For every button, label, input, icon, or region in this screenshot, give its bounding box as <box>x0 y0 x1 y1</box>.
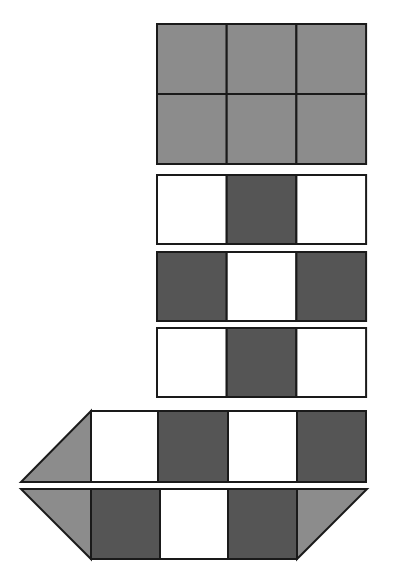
strip-tile-light <box>296 175 366 244</box>
left-triangle <box>21 411 91 482</box>
strip-tile-dark <box>228 489 297 559</box>
strip-tile-light <box>157 328 227 397</box>
strip-tile-dark <box>227 175 297 244</box>
strip-tile-light <box>160 489 228 559</box>
left-triangle <box>21 489 91 559</box>
strip-tile-dark <box>157 252 227 321</box>
grid-block-2x3 <box>157 24 366 164</box>
grid-tile <box>296 94 366 164</box>
grid-tile <box>296 24 366 94</box>
right-triangle <box>297 489 367 559</box>
strip-tile-dark <box>297 411 366 482</box>
strip-tile-light <box>228 411 297 482</box>
strip-tile-light <box>91 411 158 482</box>
strip-tile-light <box>296 328 366 397</box>
grid-tile <box>227 24 297 94</box>
quilt-diagram <box>0 0 394 581</box>
strip-tile-light <box>227 252 297 321</box>
strip-tile-dark <box>158 411 228 482</box>
strip-3 <box>157 328 366 397</box>
strip-2 <box>157 252 366 321</box>
grid-tile <box>157 94 227 164</box>
strip-tile-dark <box>91 489 160 559</box>
strip-1 <box>157 175 366 244</box>
grid-tile <box>157 24 227 94</box>
strip-tile-dark <box>296 252 366 321</box>
strip-4-with-left-triangle <box>21 411 366 482</box>
strip-tile-dark <box>227 328 297 397</box>
strip-tile-light <box>157 175 227 244</box>
strip-5-trapezoid <box>21 489 367 559</box>
grid-tile <box>227 94 297 164</box>
